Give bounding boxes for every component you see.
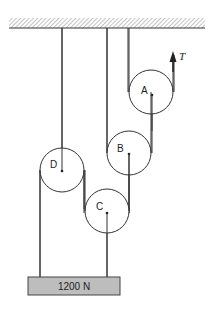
pulley-c-label: C	[96, 201, 103, 212]
pulley-a-label: A	[141, 85, 148, 96]
tension-label: T	[179, 50, 186, 62]
load-block: 1200 N	[28, 277, 120, 295]
pulley-diagram: A B D C T 1200 N	[0, 0, 216, 315]
load-label: 1200 N	[58, 281, 90, 292]
pulley-b-label: B	[117, 143, 124, 154]
pulley-d: D	[40, 28, 84, 277]
tension-arrow: T	[170, 50, 187, 72]
pulley-d-label: D	[50, 159, 57, 170]
ceiling	[9, 18, 205, 28]
